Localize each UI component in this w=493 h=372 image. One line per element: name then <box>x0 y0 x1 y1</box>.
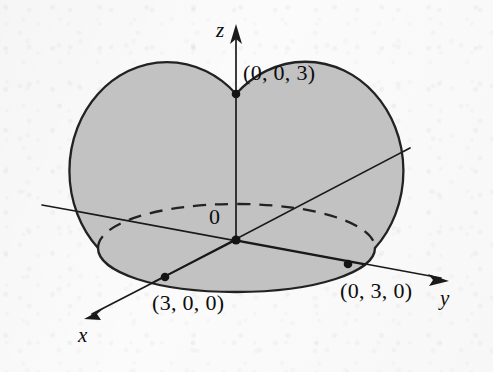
z-axis-label: z <box>216 20 224 41</box>
x-axis-arrowhead <box>84 308 104 320</box>
y-axis-label: y <box>440 288 449 309</box>
point-dot-origin <box>231 235 240 244</box>
x-axis-label: x <box>78 325 87 346</box>
hemisphere-drawing <box>0 0 493 372</box>
point-dot-x-intercept <box>161 273 170 282</box>
point-label-z-intercept: (0, 0, 3) <box>243 62 315 84</box>
y-axis-arrowhead <box>428 274 449 286</box>
point-label-x-intercept: (3, 0, 0) <box>152 292 224 314</box>
origin-label: 0 <box>209 206 220 228</box>
point-dot-z-intercept <box>232 90 241 99</box>
point-dot-y-intercept <box>344 260 353 269</box>
point-label-y-intercept: (0, 3, 0) <box>340 280 412 302</box>
hemisphere-figure: z y x 0 (0, 0, 3) (3, 0, 0) (0, 3, 0) <box>0 0 493 372</box>
